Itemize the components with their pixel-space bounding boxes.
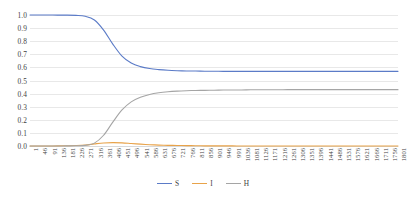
legend-item-i[interactable]: I xyxy=(192,180,212,187)
legend-label: I xyxy=(210,180,212,187)
x-axis-tick-label: 496 xyxy=(134,148,141,158)
chart-legend: SIH xyxy=(0,180,406,187)
x-axis-tick-label: 586 xyxy=(153,148,160,158)
series-curves xyxy=(30,15,398,146)
x-axis-tick-label: 1666 xyxy=(374,148,381,161)
x-axis-tick-label: 1801 xyxy=(401,148,408,161)
series-line-s xyxy=(30,15,398,71)
legend-line-icon xyxy=(226,183,241,184)
x-axis-tick-label: 1216 xyxy=(282,148,289,161)
x-axis-tick-label: 46 xyxy=(42,148,49,155)
x-axis-tick-label: 1306 xyxy=(300,148,307,161)
x-axis-tick-label: 946 xyxy=(226,148,233,158)
x-axis-tick-label: 901 xyxy=(217,148,224,158)
x-axis-tick-label: 1531 xyxy=(346,148,353,161)
x-axis-tick-label: 1126 xyxy=(263,148,270,161)
x-axis-tick-label: 181 xyxy=(70,148,77,158)
x-axis-tick-label: 271 xyxy=(88,148,95,158)
x-axis-tick-label: 1756 xyxy=(392,148,399,161)
x-axis-tick-label: 136 xyxy=(61,148,68,158)
x-axis-tick-label: 541 xyxy=(144,148,151,158)
x-axis-tick-label: 856 xyxy=(208,148,215,158)
x-axis-tick-label: 316 xyxy=(98,148,105,158)
x-axis: 1469113618122627131636140645149654158663… xyxy=(30,148,398,174)
legend-item-h[interactable]: H xyxy=(226,180,249,187)
x-axis-tick-label: 1351 xyxy=(309,148,316,161)
legend-label: S xyxy=(175,180,179,187)
x-axis-tick-label: 1036 xyxy=(245,148,252,161)
x-axis-tick-label: 991 xyxy=(236,148,243,158)
x-axis-tick-label: 1 xyxy=(33,148,40,151)
x-axis-tick-label: 361 xyxy=(107,148,114,158)
x-axis-tick-label: 1396 xyxy=(318,148,325,161)
y-axis-tick-label: 0.8 xyxy=(17,37,27,46)
x-axis-tick-label: 721 xyxy=(180,148,187,158)
y-axis-tick-label: 0.4 xyxy=(17,89,27,98)
x-axis-tick-label: 676 xyxy=(171,148,178,158)
series-line-h xyxy=(30,90,398,146)
x-axis-tick-label: 1171 xyxy=(272,148,279,161)
y-axis-tick-label: 1.0 xyxy=(17,11,27,20)
y-axis-tick-label: 0.6 xyxy=(17,63,27,72)
x-axis-tick-label: 1486 xyxy=(337,148,344,161)
x-axis-tick-label: 766 xyxy=(190,148,197,158)
legend-line-icon xyxy=(157,183,172,184)
x-axis-tick-label: 451 xyxy=(125,148,132,158)
x-axis-tick-label: 406 xyxy=(116,148,123,158)
x-axis-tick-label: 226 xyxy=(79,148,86,158)
legend-label: H xyxy=(244,180,249,187)
plot-area xyxy=(30,15,398,146)
legend-line-icon xyxy=(192,183,207,184)
y-axis-tick-label: 0.7 xyxy=(17,50,27,59)
x-axis-tick-label: 811 xyxy=(199,148,206,158)
x-axis-tick-label: 1081 xyxy=(254,148,261,161)
y-axis-tick-label: 0.2 xyxy=(17,115,27,124)
x-axis-tick-label: 1441 xyxy=(328,148,335,161)
y-axis-tick-label: 0.9 xyxy=(17,24,27,33)
legend-item-s[interactable]: S xyxy=(157,180,179,187)
x-axis-tick-label: 1261 xyxy=(291,148,298,161)
y-axis: 1.00.90.80.70.60.50.40.30.20.10.0 xyxy=(0,15,27,146)
x-axis-tick-label: 91 xyxy=(52,148,59,155)
y-axis-tick-label: 0.0 xyxy=(17,142,27,151)
x-axis-tick-label: 1711 xyxy=(383,148,390,161)
x-axis-tick-label: 631 xyxy=(162,148,169,158)
x-axis-tick-label: 1576 xyxy=(355,148,362,161)
x-axis-tick-label: 1621 xyxy=(364,148,371,161)
y-axis-tick-label: 0.1 xyxy=(17,128,27,137)
y-axis-tick-label: 0.5 xyxy=(17,76,27,85)
y-axis-tick-label: 0.3 xyxy=(17,102,27,111)
